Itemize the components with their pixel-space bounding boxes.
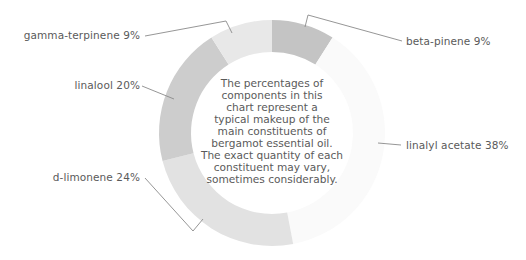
center-note-line: The percentages of — [197, 77, 347, 89]
label-linalyl-acetate: linalyl acetate 38% — [406, 139, 509, 151]
center-note-line: bergamot essential oil. — [197, 137, 347, 149]
label-d-limonene: d-limonene 24% — [53, 171, 140, 183]
center-note-line: The exact quantity of each — [197, 149, 347, 161]
center-note-line: chart represent a — [197, 101, 347, 113]
label-beta-pinene: beta-pinene 9% — [406, 35, 491, 47]
label-linalool: linalool 20% — [75, 79, 140, 91]
center-note-line: sometimes considerably. — [197, 173, 347, 185]
center-note: The percentages of components in this ch… — [197, 77, 347, 185]
center-note-line: constituent may vary, — [197, 161, 347, 173]
center-note-line: main constituents of — [197, 125, 347, 137]
center-note-line: typical makeup of the — [197, 113, 347, 125]
center-note-line: components in this — [197, 89, 347, 101]
label-gamma-terpinene: gamma-terpinene 9% — [24, 29, 140, 41]
